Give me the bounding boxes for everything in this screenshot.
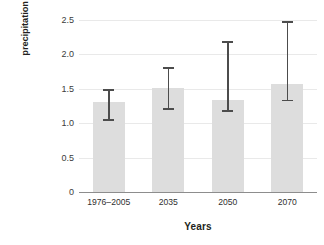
x-tick-label: 2050 [198, 196, 258, 208]
plot-area [79, 20, 317, 192]
error-bar-line [168, 67, 170, 108]
error-bar-line [227, 41, 229, 110]
error-bar-cap-lower [282, 100, 293, 102]
error-bar-cap-lower [103, 119, 114, 121]
y-tick-label: 2.0 [32, 49, 74, 59]
y-tick-label: 1.0 [32, 118, 74, 128]
x-axis-title: Years [79, 221, 317, 232]
x-tick-label: 2035 [139, 196, 199, 208]
y-tick-label: 2.5 [32, 15, 74, 25]
error-bar-cap-upper [103, 89, 114, 91]
error-bar-line [108, 89, 110, 119]
x-tick-label: 2070 [258, 196, 318, 208]
x-axis-line [79, 192, 317, 193]
error-bar-line [287, 21, 289, 99]
error-bar-cap-upper [163, 67, 174, 69]
y-tick-label: 1.5 [32, 84, 74, 94]
error-bar-cap-upper [282, 21, 293, 23]
error-bar-cap-upper [222, 41, 233, 43]
gridline [79, 54, 317, 55]
chart-figure: Maximum 24 -hour precipitation (inches) … [0, 0, 324, 245]
y-tick-label: 0.5 [32, 153, 74, 163]
x-tick-label: 1976–2005 [79, 196, 139, 208]
y-tick-label: 0 [32, 187, 74, 197]
bar [212, 100, 244, 192]
error-bar-cap-lower [222, 110, 233, 112]
error-bar-cap-lower [163, 108, 174, 110]
